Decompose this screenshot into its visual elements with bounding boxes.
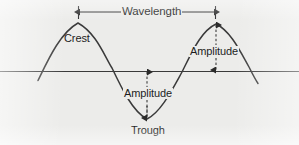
amplitude-center-label: Amplitude — [123, 88, 173, 99]
amplitude-right-label: Amplitude — [189, 46, 239, 57]
wave-diagram: Wavelength Crest Trough Amplitude Amplit… — [0, 0, 299, 145]
trough-label: Trough — [131, 125, 165, 136]
crest-label: Crest — [64, 33, 90, 44]
wavelength-label: Wavelength — [121, 6, 182, 17]
